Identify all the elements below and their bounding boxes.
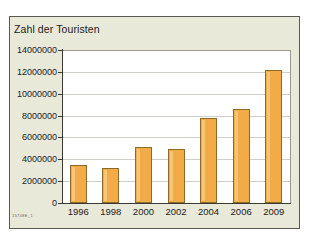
source-id-label: 15748E_1: [12, 213, 33, 218]
bars-layer: [62, 50, 291, 203]
x-tick-label: 1996: [68, 206, 89, 217]
chart-figure: Zahl der Touristen 020000004000000600000…: [0, 0, 310, 239]
bar: [265, 70, 282, 203]
bar: [200, 118, 217, 203]
x-axis-line: [62, 203, 291, 204]
x-tick-label: 2002: [165, 206, 186, 217]
y-tick-label: 0: [52, 198, 57, 208]
bar: [233, 109, 250, 203]
y-tick-label: 8000000: [22, 111, 57, 121]
bar: [70, 165, 87, 203]
x-tick-label: 2006: [231, 206, 252, 217]
y-tick-mark: [58, 116, 62, 117]
y-tick-label: 14000000: [17, 45, 57, 55]
y-tick-label: 10000000: [17, 89, 57, 99]
y-tick-mark: [58, 94, 62, 95]
y-axis-labels: 0200000040000006000000800000010000000120…: [0, 0, 57, 239]
y-tick-mark: [58, 181, 62, 182]
y-tick-mark: [58, 50, 62, 51]
x-tick-label: 1998: [100, 206, 121, 217]
y-tick-label: 12000000: [17, 67, 57, 77]
bar: [168, 149, 185, 203]
bar: [102, 168, 119, 203]
y-tick-label: 6000000: [22, 132, 57, 142]
x-tick-label: 2000: [133, 206, 154, 217]
y-tick-label: 4000000: [22, 154, 57, 164]
y-tick-mark: [58, 137, 62, 138]
y-tick-label: 2000000: [22, 176, 57, 186]
x-tick-label: 2009: [263, 206, 284, 217]
y-tick-mark: [58, 203, 62, 204]
y-tick-mark: [58, 72, 62, 73]
x-tick-label: 2004: [198, 206, 219, 217]
y-tick-mark: [58, 159, 62, 160]
bar: [135, 147, 152, 203]
